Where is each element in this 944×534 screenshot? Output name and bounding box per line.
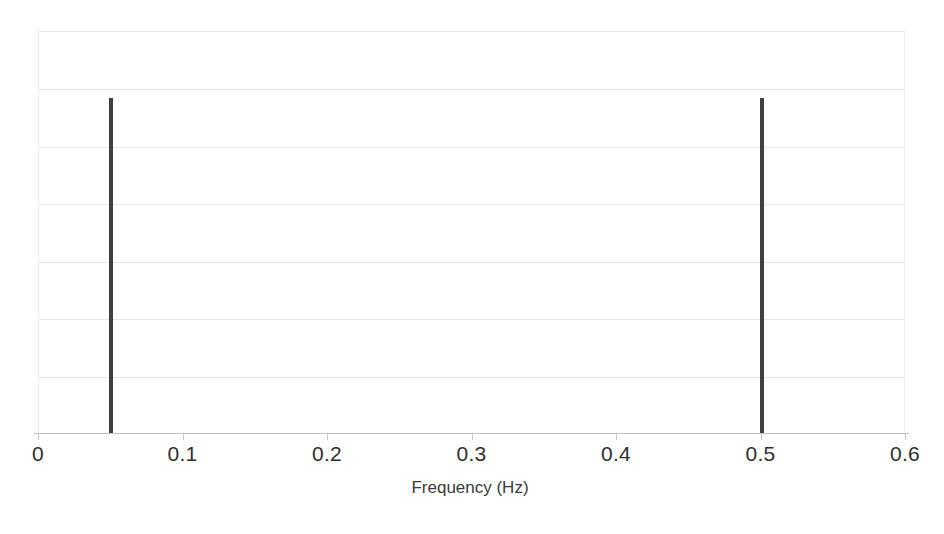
x-axis-tick (761, 433, 762, 440)
x-axis-title-text: Frequency (Hz) (411, 478, 528, 498)
x-axis-tick (905, 433, 906, 440)
data-bar (109, 98, 113, 433)
x-axis-tick-label: 0.4 (576, 441, 656, 467)
frequency-spectrum-chart: 00.10.20.30.40.50.6 Frequency (Hz) (0, 0, 944, 534)
x-axis-tick-label: 0 (0, 441, 78, 467)
x-axis-title: Frequency (Hz) (0, 478, 944, 498)
x-axis-tick-label: 0.5 (721, 441, 801, 467)
gridline-horizontal (39, 204, 904, 205)
gridline-horizontal (39, 319, 904, 320)
x-axis-tick (472, 433, 473, 440)
gridline-horizontal (39, 377, 904, 378)
x-axis-tick (38, 433, 39, 440)
plot-area (38, 31, 905, 433)
x-axis-tick-label: 0.1 (143, 441, 223, 467)
gridline-horizontal (39, 147, 904, 148)
x-axis-tick-label: 0.6 (865, 441, 944, 467)
data-bar (760, 98, 764, 433)
gridline-horizontal (39, 262, 904, 263)
x-axis-tick-label: 0.2 (287, 441, 367, 467)
x-axis-tick (616, 433, 617, 440)
gridline-horizontal (39, 89, 904, 90)
x-axis-tick (327, 433, 328, 440)
x-axis-tick-label: 0.3 (432, 441, 512, 467)
x-axis-tick (183, 433, 184, 440)
